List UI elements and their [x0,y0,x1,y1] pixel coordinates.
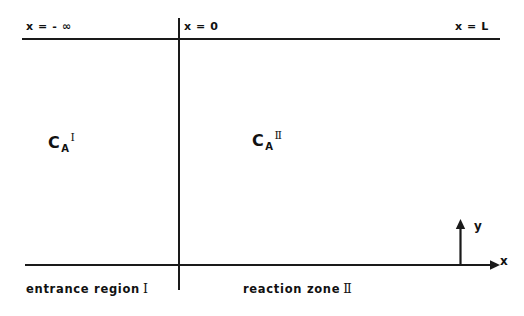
concentration-base-region-2: C [252,131,264,150]
caption-reaction-zone-text: reaction zone [243,282,340,296]
axis-label-x: x [500,254,508,268]
label-x-zero: x = 0 [184,20,219,33]
caption-entrance-region-text: entrance region [26,282,140,296]
concentration-symbol-region-1: CAⅠ [48,131,75,154]
concentration-superscript-region-1: Ⅰ [71,131,76,144]
label-x-minus-infinity: x = - ∞ [26,20,72,33]
bottom-boundary-line [25,264,465,266]
coordinate-axes-widget [440,214,524,272]
y-axis-arrowhead [456,219,465,229]
x-axis-arrowhead [490,260,500,269]
label-x-L: x = L [455,20,489,33]
concentration-base-region-1: C [48,133,60,152]
concentration-subscript-region-1: A [61,143,69,154]
concentration-symbol-region-2: CAⅡ [252,129,282,152]
caption-reaction-zone: reaction zoneⅡ [243,281,352,296]
caption-entrance-region-numeral: Ⅰ [143,281,149,296]
concentration-superscript-region-2: Ⅱ [275,129,283,142]
coordinate-axes-icon [440,214,524,272]
top-boundary-line [22,38,500,40]
axis-label-y: y [474,219,482,233]
concentration-subscript-region-2: A [265,141,273,152]
caption-entrance-region: entrance regionⅠ [26,281,149,296]
caption-reaction-zone-numeral: Ⅱ [343,281,352,296]
diagram-canvas: x = - ∞ x = 0 x = L CAⅠ CAⅡ entrance reg… [0,0,524,316]
interface-line [178,18,180,290]
